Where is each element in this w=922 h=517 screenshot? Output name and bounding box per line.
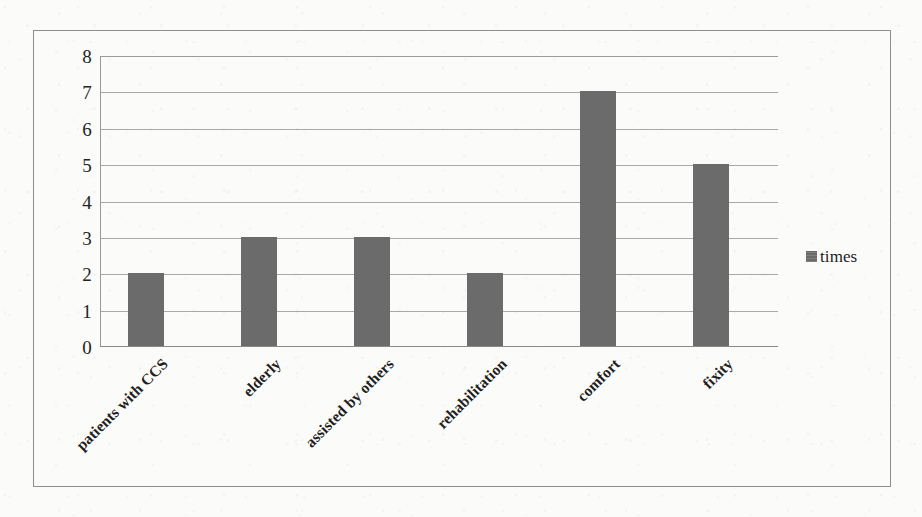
y-axis-tick-6: 6: [52, 119, 92, 138]
gridline-7: [101, 92, 778, 93]
y-axis-tick-3: 3: [52, 228, 92, 247]
chart-screenshot: 876543210 patients with CCSelderlyassist…: [0, 0, 922, 517]
gridline-6: [101, 129, 778, 130]
y-axis-tick-1: 1: [52, 301, 92, 320]
bar-assisted-by-others[interactable]: [354, 237, 390, 346]
y-axis: 876543210: [52, 56, 92, 347]
x-axis-label-text: fixity: [699, 355, 737, 393]
legend-label-times: times: [820, 248, 857, 265]
x-axis-label-text: assisted by others: [302, 355, 398, 451]
bar-comfort[interactable]: [580, 91, 616, 346]
gridline-4: [101, 202, 778, 203]
y-axis-tick-8: 8: [52, 47, 92, 66]
gridline-8: [101, 56, 778, 57]
gridline-2: [101, 274, 778, 275]
x-axis-label-text: rehabilitation: [433, 355, 510, 432]
y-axis-tick-0: 0: [52, 338, 92, 357]
bar-patients-with-ccs[interactable]: [128, 273, 164, 346]
gridline-5: [101, 165, 778, 166]
bar-fixity[interactable]: [693, 164, 729, 346]
legend-swatch-times-icon: [806, 251, 817, 262]
y-axis-tick-4: 4: [52, 192, 92, 211]
y-axis-tick-7: 7: [52, 83, 92, 102]
x-axis-label-text: comfort: [574, 355, 624, 405]
x-axis-label-text: elderly: [239, 355, 284, 400]
y-axis-tick-2: 2: [52, 265, 92, 284]
legend: times: [806, 248, 857, 265]
x-axis-labels: patients with CCSelderlyassisted by othe…: [100, 347, 778, 487]
gridline-3: [101, 238, 778, 239]
y-axis-tick-5: 5: [52, 156, 92, 175]
